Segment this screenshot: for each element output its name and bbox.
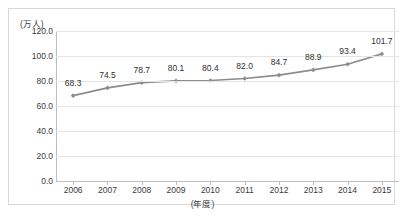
gridline (56, 106, 399, 107)
x-axis-tick-labels: 2006200720082009201020112012201320142015 (56, 185, 399, 199)
x-axis-tick-mark (142, 181, 143, 185)
y-axis-tick-label: 60.0 (15, 102, 53, 111)
data-point-label: 78.7 (125, 66, 159, 75)
line-chart-figure: (万人) 120.0100.080.060.040.020.00.0 68.37… (0, 0, 403, 220)
data-point-label: 101.7 (365, 37, 399, 46)
y-axis-tick-label: 100.0 (15, 52, 53, 61)
x-axis-tick-mark (279, 181, 280, 185)
plot-area: 68.374.578.780.180.482.084.788.993.4101.… (56, 31, 399, 181)
x-axis-tick-mark (176, 181, 177, 185)
data-point-marker (277, 73, 282, 78)
x-axis-tick-label: 2015 (362, 185, 402, 196)
data-point-marker (311, 68, 316, 73)
chart-frame: (万人) 120.0100.080.060.040.020.00.0 68.37… (8, 8, 395, 205)
data-point-label: 80.4 (193, 64, 227, 73)
data-point-marker (71, 93, 76, 98)
data-point-label: 68.3 (56, 79, 90, 88)
x-axis-tick-mark (73, 181, 74, 185)
gridline (56, 156, 399, 157)
y-axis-tick-label: 0.0 (15, 177, 53, 186)
data-point-label: 80.1 (159, 64, 193, 73)
x-axis-tick-mark (107, 181, 108, 185)
x-axis-tick-mark (382, 181, 383, 185)
y-axis-tick-label: 120.0 (15, 27, 53, 36)
data-point-marker (105, 86, 110, 91)
data-point-label: 84.7 (262, 58, 296, 67)
x-axis-tick-mark (245, 181, 246, 185)
data-point-label: 74.5 (90, 71, 124, 80)
data-point-label: 82.0 (228, 62, 262, 71)
y-axis-tick-label: 20.0 (15, 152, 53, 161)
gridline (56, 81, 399, 82)
x-axis-tick-mark (348, 181, 349, 185)
x-axis-tick-mark (313, 181, 314, 185)
top-clipped-text (4, 0, 84, 4)
x-axis-tick-mark (210, 181, 211, 185)
x-axis-title: (年度) (9, 199, 396, 209)
data-point-label: 88.9 (296, 53, 330, 62)
gridline (56, 131, 399, 132)
data-point-label: 93.4 (331, 47, 365, 56)
y-axis-tick-labels: 120.0100.080.060.040.020.00.0 (9, 31, 53, 181)
y-axis-tick-label: 80.0 (15, 77, 53, 86)
data-point-marker (345, 62, 350, 67)
y-axis-tick-label: 40.0 (15, 127, 53, 136)
gridline (56, 31, 399, 32)
